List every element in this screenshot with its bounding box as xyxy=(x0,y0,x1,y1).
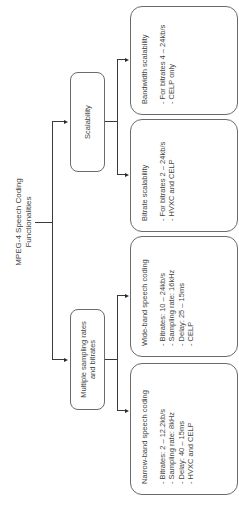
node-multiple-sampling-label: Multiple sampling rates and bitrates xyxy=(79,321,97,398)
leaf-bandwidth-heading: Bandwidth scalability xyxy=(140,7,150,104)
node-multiple-sampling: Multiple sampling rates and bitrates xyxy=(70,309,105,410)
leaf-bandwidth-scalability: Bandwidth scalability For bitrates 4 – 2… xyxy=(130,6,238,115)
arrow-to-bitrate-icon xyxy=(125,173,129,177)
arrow-to-wideband-icon xyxy=(125,294,129,298)
list-item: Delay: 25 – 15ms xyxy=(177,237,187,346)
root-trunk-connector xyxy=(52,121,53,360)
diagram-canvas: MPEG-4 Speech Coding Functionalities Sca… xyxy=(0,0,239,519)
list-item: HVXC and CELP xyxy=(186,364,196,484)
root-title-line2: Functionalities xyxy=(24,174,34,270)
list-item: CELP only xyxy=(167,7,177,104)
list-item: HVXC and CELP xyxy=(167,120,177,221)
leaf-bitrate-heading: Bitrate scalability xyxy=(140,120,150,221)
leaf-bitrate-scalability: Bitrate scalability For bitrates 2 – 24k… xyxy=(130,119,238,232)
list-item: CELP xyxy=(186,237,196,346)
arrow-to-scalability-icon xyxy=(64,120,68,124)
leaf-wideband-heading: Wide-band speech coding xyxy=(140,237,150,346)
node-scalability-label: Scalability xyxy=(83,105,92,139)
list-item: Bitrates: 2 – 12.2kb/s xyxy=(158,364,168,484)
arrow-to-bandwidth-icon xyxy=(125,58,129,62)
list-item: For bitrates 2 – 24kb/s xyxy=(158,120,168,221)
node-multiple-sampling-line1: Multiple sampling rates xyxy=(79,321,88,398)
node-scalability: Scalability xyxy=(70,72,105,172)
leaf-wideband-list: Bitrates: 10 – 24kb/s Sampling rate: 16k… xyxy=(158,237,196,346)
leaf-wideband-coding: Wide-band speech coding Bitrates: 10 – 2… xyxy=(130,236,238,357)
arrow-to-multiple-icon xyxy=(64,358,68,362)
multiple-stub-connector xyxy=(105,359,117,360)
leaf-bandwidth-list: For bitrates 4 – 24kb/s CELP only xyxy=(158,7,177,104)
scalability-stub-connector xyxy=(105,121,117,122)
root-title: MPEG-4 Speech Coding Functionalities xyxy=(14,174,34,270)
node-multiple-sampling-line2: and bitrates xyxy=(88,340,97,379)
list-item: Delay: 40 – 15ms xyxy=(177,364,187,484)
list-item: For bitrates 4 – 24kb/s xyxy=(158,7,168,104)
root-title-line1: MPEG-4 Speech Coding xyxy=(14,174,24,270)
list-item: Bitrates: 10 – 24kb/s xyxy=(158,237,168,346)
root-stub-connector xyxy=(35,222,52,223)
leaf-bitrate-list: For bitrates 2 – 24kb/s HVXC and CELP xyxy=(158,120,177,221)
leaf-narrowband-list: Bitrates: 2 – 12.2kb/s Sampling rate: 8k… xyxy=(158,364,196,484)
multiple-branch-connector xyxy=(117,295,118,411)
list-item: Sampling rate: 8kHz xyxy=(167,364,177,484)
leaf-narrowband-heading: Narrow-band speech coding xyxy=(140,364,150,484)
scalability-branch-connector xyxy=(117,59,118,175)
arrow-to-narrowband-icon xyxy=(125,409,129,413)
list-item: Sampling rate: 16kHz xyxy=(167,237,177,346)
leaf-narrowband-coding: Narrow-band speech coding Bitrates: 2 – … xyxy=(130,363,238,495)
